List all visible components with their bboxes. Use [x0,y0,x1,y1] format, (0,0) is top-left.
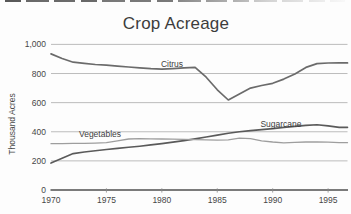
x-tick-label-1970: 1970 [42,195,61,205]
y-tick-label-800: 800 [32,69,46,79]
citrus-series-label: Citrus [161,59,183,69]
x-tick-label-1975: 1975 [97,195,116,205]
x-tick-label-1990: 1990 [263,195,282,205]
chart-canvas: Crop Acreage Thousand Acres 020040060080… [0,0,351,214]
citrus-line [51,54,348,100]
crop-acreage-chart-screen: Crop Acreage Thousand Acres 020040060080… [0,0,351,214]
vegetables-line [51,138,348,144]
y-tick-label-1000: 1,000 [25,39,47,49]
y-tick-label-0: 0 [41,185,46,195]
x-tick-label-1980: 1980 [152,195,171,205]
y-axis-label: Thousand Acres [7,93,17,154]
cropped-text-artifact [5,0,345,2]
plot-area: 02004006008001,0001970197519801985199019… [25,39,348,205]
sugarcane-series-label: Sugarcane [260,119,301,129]
vegetables-series-label: Vegetables [79,129,121,139]
chart-title: Crop Acreage [123,14,229,33]
y-tick-label-400: 400 [32,127,46,137]
y-tick-label-200: 200 [32,156,46,166]
y-tick-label-600: 600 [32,98,46,108]
x-tick-label-1995: 1995 [319,195,338,205]
x-tick-label-1985: 1985 [208,195,227,205]
